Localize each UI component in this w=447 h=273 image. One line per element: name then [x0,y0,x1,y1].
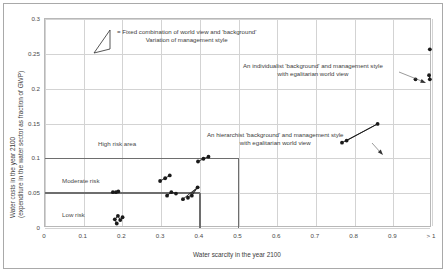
gridline-horizontal [45,124,430,125]
x-axis-tick-label: 0.4 [194,232,203,239]
y-axis-tick-label: 0.05 [22,189,40,196]
gridline-vertical [355,19,356,226]
gridline-horizontal [45,19,430,20]
gridline-vertical [316,19,317,226]
gridline-vertical [84,19,85,226]
gridline-vertical [122,19,123,226]
x-axis-tick-label: > 1 [427,232,436,239]
risk-threshold-vertical [238,158,240,228]
x-axis-tick-label: 0.8 [349,232,358,239]
gridline-horizontal [45,228,430,229]
y-axis-tick-label: 0.3 [22,15,40,22]
gridline-vertical [393,19,394,226]
zone-label-high-risk: High risk area [98,140,136,147]
x-axis-tick-label: 0.6 [272,232,281,239]
y-axis-title-line-2: (expenditure in the water sector as frac… [17,71,25,218]
plot-area [44,18,431,227]
gridline-vertical [161,19,162,226]
annotation-individualist-line-2: with egalitarian world view [243,70,383,78]
annotation-hierarchist-line-2: with egalitarian world view [207,139,343,147]
y-axis-tick-label: 0.2 [22,84,40,91]
x-axis-tick-label: 0.9 [388,232,397,239]
x-axis-tick-label: 0.7 [311,232,320,239]
gridline-vertical [45,19,46,226]
x-axis-tick-label: 0 [42,232,45,239]
y-axis-title-line-1: Water costs in the year 2100 [9,71,17,218]
y-axis-tick-label: 0.15 [22,119,40,126]
x-axis-tick-label: 0.1 [78,232,87,239]
risk-threshold-horizontal [45,158,239,160]
risk-threshold-vertical [199,193,201,228]
zone-label-low-risk: Low risk [62,211,85,218]
y-axis-tick-label: 0.25 [22,49,40,56]
y-axis-title: Water costs in the year 2100 (expenditur… [9,71,24,218]
legend-line-1: = Fixed combination of world view and 'b… [117,28,256,36]
x-axis-tick-label: 0.5 [233,232,242,239]
legend-text: = Fixed combination of world view and 'b… [117,28,256,43]
risk-threshold-horizontal [45,192,200,194]
annotation-hierarchist-line-1: An hierarchist 'background' and manageme… [207,131,343,139]
y-axis-tick-label: 0.1 [22,154,40,161]
zone-label-moderate-risk: Moderate risk [62,177,99,184]
x-axis-title: Water scarcity in the year 2100 [193,251,281,258]
legend-line-2: Variation of management style [117,36,256,44]
y-axis-tick-label: 0 [22,224,40,231]
annotation-individualist-line-1: An individualist 'background' and manage… [243,62,383,70]
chart-figure: 00.10.20.30.40.50.60.70.80.9> 100.050.10… [0,0,447,273]
gridline-horizontal [45,54,430,55]
x-axis-tick-label: 0.3 [156,232,165,239]
gridline-vertical [277,19,278,226]
gridline-horizontal [45,89,430,90]
x-axis-tick-label: 0.2 [117,232,126,239]
annotation-hierarchist: An hierarchist 'background' and manageme… [207,131,343,146]
gridline-vertical [432,19,433,226]
annotation-individualist: An individualist 'background' and manage… [243,62,383,77]
